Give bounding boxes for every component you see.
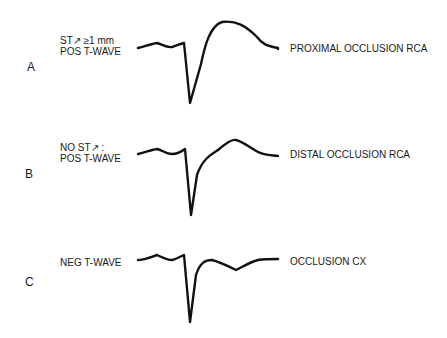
ecg-trace-c [138,255,278,322]
ecg-traces [0,0,447,338]
figure-caption-clipped [0,331,447,338]
ecg-trace-b [138,140,278,215]
ecg-trace-a [138,22,278,103]
